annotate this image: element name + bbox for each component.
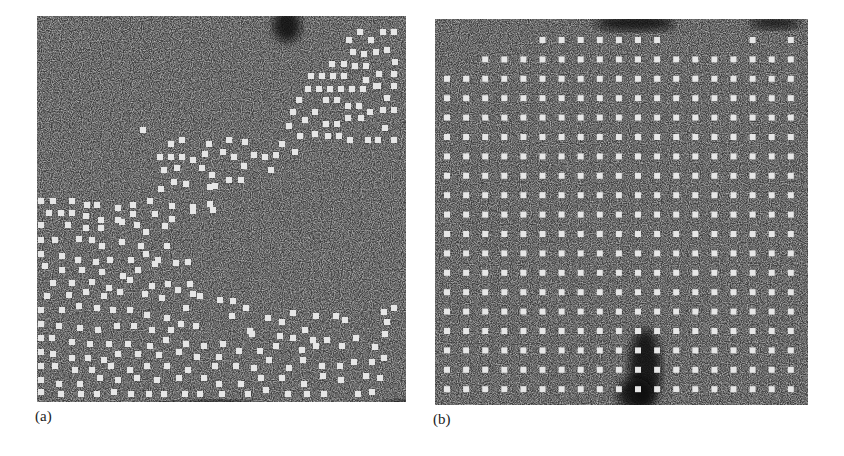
particle-dot: [750, 134, 756, 140]
particle-dot: [788, 37, 794, 43]
panel-a-image: [37, 16, 406, 402]
particle-dot: [381, 309, 387, 315]
particle-dot: [501, 212, 507, 218]
particle-dot: [197, 293, 203, 299]
particle-dot: [46, 210, 52, 216]
particle-dot: [711, 347, 717, 353]
particle-dot: [501, 76, 507, 82]
particle-dot: [258, 375, 264, 381]
particle-dot: [520, 134, 526, 140]
particle-dot: [38, 363, 44, 369]
particle-dot: [349, 86, 355, 92]
particle-dot: [207, 201, 213, 207]
particle-dot: [635, 328, 641, 334]
particle-dot: [350, 49, 356, 55]
particle-dot: [750, 56, 756, 62]
particle-dot: [77, 325, 83, 331]
particle-dot: [352, 63, 358, 69]
particle-dot: [692, 56, 698, 62]
particle-dot: [367, 109, 373, 115]
particle-dot: [578, 173, 584, 179]
particle-dot: [329, 61, 335, 67]
particle-dot: [616, 289, 622, 295]
particle-dot: [178, 321, 184, 327]
particle-dot: [339, 343, 345, 349]
particle-dot: [578, 328, 584, 334]
particle-dot: [444, 76, 450, 82]
particle-dot: [368, 37, 374, 43]
particle-dot: [635, 250, 641, 256]
particle-dot: [330, 73, 336, 79]
particle-dot: [482, 56, 488, 62]
particle-dot: [243, 305, 249, 311]
particle-dot: [38, 237, 44, 243]
particle-dot: [111, 389, 117, 395]
particle-dot: [290, 109, 296, 115]
particle-dot: [69, 280, 75, 286]
particle-dot: [540, 309, 546, 315]
particle-dot: [365, 137, 371, 143]
particle-dot: [233, 363, 239, 369]
particle-dot: [201, 375, 207, 381]
particle-dot: [482, 367, 488, 373]
particle-dot: [351, 359, 357, 365]
particle-dot: [692, 173, 698, 179]
particle-dot: [750, 270, 756, 276]
particle-dot: [149, 327, 155, 333]
particle-dot: [788, 231, 794, 237]
particle-dot: [463, 309, 469, 315]
particle-dot: [384, 95, 390, 101]
particle-dot: [357, 29, 363, 35]
particle-dot: [199, 165, 205, 171]
particle-dot: [380, 29, 386, 35]
particle-dot: [616, 231, 622, 237]
particle-dot: [226, 177, 232, 183]
particle-dot: [692, 289, 698, 295]
particle-dot: [158, 186, 164, 192]
particle-dot: [316, 86, 322, 92]
particle-dot: [711, 386, 717, 392]
particle-dot: [540, 289, 546, 295]
particle-dot: [559, 367, 565, 373]
particle-dot: [337, 363, 343, 369]
particle-dot: [290, 310, 296, 316]
particle-dot: [578, 212, 584, 218]
particle-dot: [540, 76, 546, 82]
particle-dot: [463, 95, 469, 101]
particle-dot: [654, 56, 660, 62]
particle-dot: [501, 173, 507, 179]
particle-dot: [147, 198, 153, 204]
particle-dot: [87, 341, 93, 347]
particle-dot: [94, 391, 100, 397]
particle-dot: [190, 157, 196, 163]
particle-dot: [263, 387, 269, 393]
particle-dot: [673, 250, 679, 256]
particle-dot: [578, 367, 584, 373]
particle-dot: [321, 391, 327, 397]
particle-dot: [212, 363, 218, 369]
particle-dot: [373, 83, 379, 89]
particle-dot: [320, 373, 326, 379]
particle-dot: [444, 212, 450, 218]
particle-dot: [463, 386, 469, 392]
particle-dot: [750, 250, 756, 256]
particle-dot: [110, 307, 116, 313]
particle-dot: [345, 115, 351, 121]
particle-dot: [251, 365, 257, 371]
particle-dot: [144, 312, 150, 318]
particle-dot: [654, 386, 660, 392]
particle-dot: [463, 231, 469, 237]
particle-dot: [161, 167, 167, 173]
particle-dot: [183, 181, 189, 187]
particle-dot: [731, 212, 737, 218]
particle-dot: [520, 95, 526, 101]
particle-dot: [313, 313, 319, 319]
particle-dot: [444, 231, 450, 237]
particle-dot: [559, 231, 565, 237]
particle-dot: [346, 37, 352, 43]
particle-dot: [251, 152, 257, 158]
particle-dot: [182, 391, 188, 397]
particle-dot: [391, 137, 397, 143]
particle-dot: [578, 153, 584, 159]
particle-dot: [578, 115, 584, 121]
